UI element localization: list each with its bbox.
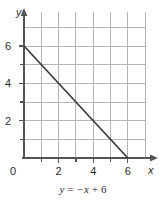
equation-caption: y=−x+6 [0, 183, 166, 195]
x-axis-arrowhead [150, 155, 158, 162]
xtick-label-2: 2 [56, 165, 62, 177]
xtick-label-6: 6 [125, 165, 131, 177]
grid-horizontal-lines [24, 27, 145, 139]
y-axis-ticks [19, 46, 24, 139]
x-axis-ticks [41, 158, 128, 163]
y-axis-label: y [15, 6, 23, 18]
coordinate-plane-plot: y x 6 4 2 0 2 4 6 [0, 0, 166, 208]
equation-equals: = [67, 183, 73, 195]
equation-lhs: y [59, 183, 64, 195]
ytick-label-4: 4 [5, 77, 11, 89]
graph-figure: y x 6 4 2 0 2 4 6 y=−x+6 [0, 0, 166, 208]
grid-vertical-lines [41, 12, 145, 158]
ytick-label-2: 2 [5, 115, 11, 127]
x-axis-label: x [147, 164, 154, 176]
y-axis-arrowhead [21, 8, 28, 16]
equation-negative-term: −x [77, 183, 89, 195]
xtick-label-4: 4 [90, 165, 96, 177]
equation-plus: + [92, 183, 98, 195]
equation-constant: 6 [101, 183, 107, 195]
x-axis [22, 155, 158, 162]
ytick-label-6: 6 [5, 40, 11, 52]
origin-label: 0 [10, 165, 16, 177]
